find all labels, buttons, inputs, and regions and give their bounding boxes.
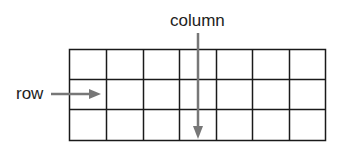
- row-label: row: [16, 85, 43, 102]
- row-arrow-icon: [51, 89, 101, 99]
- column-label: column: [170, 12, 225, 29]
